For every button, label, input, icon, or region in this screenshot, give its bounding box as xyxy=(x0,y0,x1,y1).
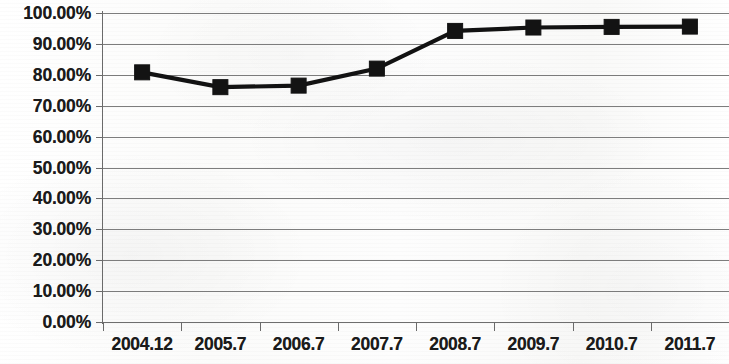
y-axis-tick xyxy=(96,106,103,107)
y-tick-label: 20.00% xyxy=(0,250,91,271)
x-axis-tick xyxy=(181,322,182,331)
y-axis-tick xyxy=(96,229,103,230)
y-tick-label: 90.00% xyxy=(0,33,91,54)
data-point-marker xyxy=(526,20,541,35)
y-axis-tick xyxy=(96,44,103,45)
y-axis-tick xyxy=(96,198,103,199)
x-tick-label: 2010.7 xyxy=(586,334,638,355)
y-tick-label: 30.00% xyxy=(0,219,91,240)
y-axis-tick xyxy=(96,13,103,14)
y-tick-label: 10.00% xyxy=(0,281,91,302)
data-point-marker xyxy=(291,78,306,93)
y-axis-tick xyxy=(96,291,103,292)
y-axis-tick xyxy=(96,75,103,76)
data-point-marker xyxy=(604,19,619,34)
y-tick-label: 100.00% xyxy=(0,3,91,24)
series-line xyxy=(142,27,690,88)
plot-area xyxy=(103,13,729,322)
x-tick-label: 2011.7 xyxy=(665,334,716,355)
y-tick-label: 60.00% xyxy=(0,126,91,147)
x-axis-tick xyxy=(651,322,652,331)
x-axis-tick xyxy=(260,322,261,331)
x-tick-label: 2005.7 xyxy=(195,334,247,355)
x-axis-tick xyxy=(338,322,339,331)
x-tick-label: 2009.7 xyxy=(508,334,560,355)
x-tick-label: 2007.7 xyxy=(351,334,403,355)
series-marker-group xyxy=(135,19,698,95)
x-axis-tick xyxy=(494,322,495,331)
x-axis-tick-group xyxy=(103,322,729,332)
y-tick-label: 50.00% xyxy=(0,157,91,178)
x-axis-label-group: 2004.12 2005.7 2006.7 2007.7 2008.7 2009… xyxy=(103,334,729,364)
data-point-marker xyxy=(369,61,384,76)
y-axis-label-group: 100.00% 90.00% 80.00% 70.00% 60.00% 50.0… xyxy=(0,0,97,364)
x-tick-label: 2006.7 xyxy=(273,334,325,355)
data-point-marker xyxy=(448,23,463,38)
y-axis-tick xyxy=(96,137,103,138)
data-point-marker xyxy=(682,19,697,34)
data-point-marker xyxy=(135,65,150,80)
y-axis-tick xyxy=(96,260,103,261)
x-axis-tick xyxy=(573,322,574,331)
x-tick-label: 2004.12 xyxy=(112,334,173,355)
line-chart: 100.00% 90.00% 80.00% 70.00% 60.00% 50.0… xyxy=(0,0,729,364)
y-axis-tick xyxy=(96,322,103,323)
y-tick-label: 40.00% xyxy=(0,188,91,209)
y-axis-tick xyxy=(96,168,103,169)
x-axis-tick xyxy=(103,322,104,331)
y-tick-label: 0.00% xyxy=(0,312,91,333)
x-tick-label: 2008.7 xyxy=(429,334,481,355)
data-point-marker xyxy=(213,80,228,95)
data-series-group xyxy=(103,13,729,322)
y-tick-label: 70.00% xyxy=(0,95,91,116)
y-tick-label: 80.00% xyxy=(0,64,91,85)
x-axis-tick xyxy=(416,322,417,331)
